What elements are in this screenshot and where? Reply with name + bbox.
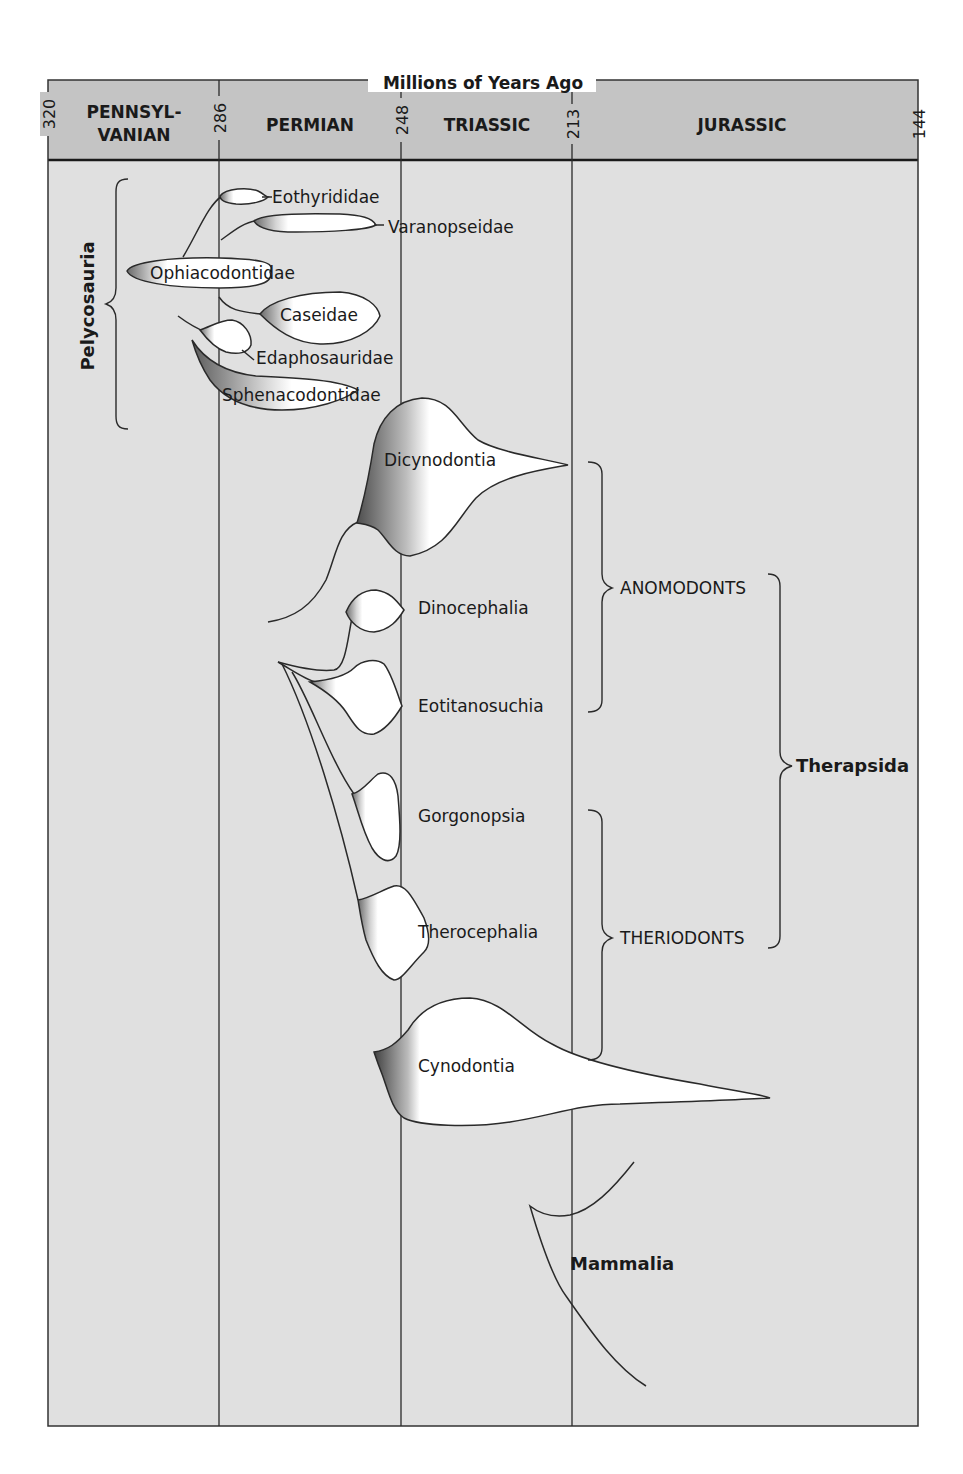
tick-320: 320 <box>40 92 59 136</box>
taxon-varanopseidae: Varanopseidae <box>388 217 514 237</box>
chart-body <box>48 160 918 1426</box>
taxon-eothyrididae: Eothyrididae <box>272 187 380 207</box>
taxon-dicynodontia: Dicynodontia <box>384 450 496 470</box>
taxon-edaphosauridae: Edaphosauridae <box>256 348 393 368</box>
taxon-cynodontia: Cynodontia <box>418 1056 515 1076</box>
svg-text:213: 213 <box>564 109 583 140</box>
svg-text:286: 286 <box>211 103 230 134</box>
tick-248: 248 <box>392 98 412 142</box>
shape-varanopseidae <box>254 214 376 232</box>
taxon-eotitanosuchia: Eotitanosuchia <box>418 696 544 716</box>
taxon-ophiacodontidae: Ophiacodontidae <box>150 263 295 283</box>
tick-286: 286 <box>210 96 230 140</box>
period-pennsylvanian-line2: VANIAN <box>97 125 170 145</box>
group-label-pelycosauria: Pelycosauria <box>77 241 98 370</box>
period-triassic: TRIASSIC <box>444 115 531 135</box>
svg-text:320: 320 <box>40 99 59 130</box>
tick-144: 144 <box>910 109 929 140</box>
evolution-chart: Millions of Years Ago 320 286 248 213 14… <box>0 0 963 1474</box>
group-label-theriodonts: THERIODONTS <box>619 928 744 948</box>
taxon-therocephalia: Therocephalia <box>417 922 538 942</box>
period-pennsylvanian: PENNSYL- <box>87 102 182 122</box>
taxon-caseidae: Caseidae <box>280 305 358 325</box>
tick-213: 213 <box>563 104 583 144</box>
svg-text:144: 144 <box>910 109 929 140</box>
taxon-dinocephalia: Dinocephalia <box>418 598 529 618</box>
group-label-anomodonts: ANOMODONTS <box>620 578 746 598</box>
period-permian: PERMIAN <box>266 115 354 135</box>
group-label-therapsida: Therapsida <box>796 755 909 776</box>
taxon-mammalia: Mammalia <box>570 1253 674 1274</box>
taxon-sphenacodontidae: Sphenacodontidae <box>222 385 381 405</box>
svg-text:248: 248 <box>393 105 412 136</box>
taxon-gorgonopsia: Gorgonopsia <box>418 806 525 826</box>
header-title: Millions of Years Ago <box>383 73 583 93</box>
period-jurassic: JURASSIC <box>697 115 787 135</box>
